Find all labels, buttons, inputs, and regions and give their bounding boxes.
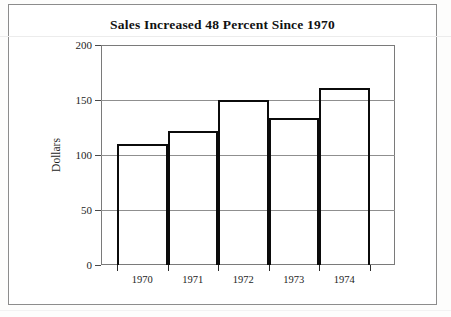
bar-1973: [269, 118, 320, 265]
bar-1972: [218, 100, 269, 265]
y-tick-label-200: 200: [76, 39, 93, 51]
x-tick-label-1972: 1972: [233, 274, 254, 285]
x-tick-label-1974: 1974: [334, 274, 355, 285]
plot-area: 050100150200 19701971197219731974: [101, 45, 395, 265]
y-tick-label-50: 50: [81, 204, 92, 216]
y-axis-title: Dollars: [50, 138, 62, 172]
y-tick-label-100: 100: [76, 149, 93, 161]
y-tick-0: [95, 265, 101, 266]
x-tick-1973: [269, 265, 270, 271]
title-divider: [0, 36, 451, 37]
x-tick-1974: [319, 265, 320, 271]
page-edge-line: [0, 310, 451, 311]
y-tick-label-0: 0: [87, 259, 93, 271]
x-tick-label-1970: 1970: [132, 274, 153, 285]
y-tick-200: [95, 45, 101, 46]
chart-title: Sales Increased 48 Percent Since 1970: [8, 17, 437, 33]
x-tick-label-1971: 1971: [182, 274, 203, 285]
figure-canvas: Sales Increased 48 Percent Since 1970 Do…: [0, 0, 451, 317]
y-tick-100: [95, 155, 101, 156]
x-tick-1970: [117, 265, 118, 271]
x-tick-1972: [218, 265, 219, 271]
y-tick-label-150: 150: [76, 94, 93, 106]
y-tick-150: [95, 100, 101, 101]
x-tick-1971: [168, 265, 169, 271]
x-tick-end: [370, 265, 371, 271]
bar-1970: [117, 144, 168, 265]
y-tick-50: [95, 210, 101, 211]
x-tick-label-1973: 1973: [283, 274, 304, 285]
bar-1974: [319, 88, 370, 265]
bar-1971: [168, 131, 219, 265]
